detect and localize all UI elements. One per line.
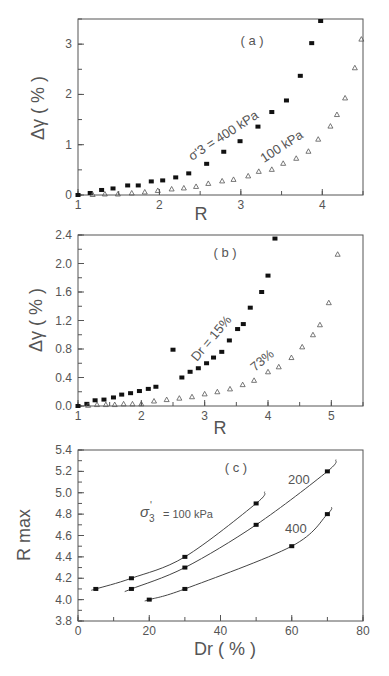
chart-panel-c: 0204060803.84.04.24.44.64.85.05.25.4 R m… — [14, 443, 370, 659]
axis-ticks-a: 12340123 — [65, 19, 363, 212]
svg-text:= 100 kPa: = 100 kPa — [163, 508, 214, 520]
square-marker — [179, 376, 184, 380]
square-marker — [76, 193, 81, 197]
triangle-marker — [206, 181, 211, 186]
x-tick-label: 2 — [156, 198, 163, 212]
y-tick-label: 5.0 — [55, 486, 72, 500]
y-tick-label: 3 — [65, 37, 72, 51]
square-marker — [219, 350, 224, 354]
triangle-marker — [289, 355, 294, 360]
fit-curve — [91, 492, 264, 591]
triangle-marker — [215, 389, 220, 394]
square-marker — [221, 150, 226, 154]
y-tick-label: 4.2 — [55, 571, 72, 585]
y-tick-label: 4.4 — [55, 550, 72, 564]
triangle-marker — [352, 65, 357, 70]
x-axis-label-c: Dr ( % ) — [194, 639, 256, 659]
x-axis-label-b: R — [214, 418, 227, 438]
y-tick-label: 4.6 — [55, 529, 72, 543]
plot-frame-a — [78, 19, 363, 195]
y-tick-label: 0 — [65, 188, 72, 202]
data-points-b — [76, 237, 341, 408]
square-marker — [325, 469, 330, 473]
triangle-marker — [276, 364, 281, 369]
square-marker — [204, 162, 209, 166]
square-marker — [101, 398, 106, 402]
square-marker — [254, 501, 259, 505]
triangle-marker — [202, 391, 207, 396]
x-tick-label: 1 — [75, 409, 82, 423]
square-marker — [147, 598, 152, 602]
x-tick-label: 4 — [319, 198, 326, 212]
square-marker — [171, 348, 176, 352]
y-tick-label: 0.4 — [55, 371, 72, 385]
triangle-marker — [281, 161, 286, 166]
square-marker — [309, 41, 314, 45]
square-marker — [149, 179, 154, 183]
triangle-marker — [306, 149, 311, 154]
square-marker — [272, 237, 277, 241]
series-label-a-100: 100 kPa — [257, 127, 306, 166]
square-marker — [289, 544, 294, 548]
x-tick-label: 5 — [328, 409, 335, 423]
y-tick-label: 1.2 — [55, 314, 72, 328]
figure: 12340123 Δγ ( % ) R ( a ) σ'3 = 400 kPa … — [0, 0, 389, 676]
x-tick-label: 4 — [265, 409, 272, 423]
square-marker — [241, 322, 246, 326]
square-marker — [160, 178, 165, 182]
triangle-marker — [310, 332, 315, 337]
x-tick-label: 3 — [238, 198, 245, 212]
square-marker — [111, 186, 116, 190]
square-marker — [269, 110, 274, 114]
square-marker — [182, 555, 187, 559]
data-points-a — [76, 19, 364, 197]
y-tick-label: 4.8 — [55, 507, 72, 521]
series-label-c-100: σ ' 3 = 100 kPa — [140, 500, 214, 524]
square-marker — [128, 391, 133, 395]
triangle-marker — [228, 386, 233, 391]
triangle-marker — [300, 344, 305, 349]
square-marker — [99, 188, 104, 192]
square-marker — [266, 274, 271, 278]
square-marker — [259, 290, 264, 294]
chart-panel-a: 12340123 Δγ ( % ) R ( a ) σ'3 = 400 kPa … — [28, 19, 364, 224]
panel-label-c: ( c ) — [225, 460, 247, 475]
square-marker — [129, 576, 134, 580]
y-tick-label: 5.4 — [55, 443, 72, 457]
square-marker — [255, 125, 260, 129]
triangle-marker — [266, 369, 271, 374]
square-marker — [146, 387, 151, 391]
x-axis-label-a: R — [195, 204, 208, 224]
triangle-marker — [335, 252, 340, 256]
chart-panel-b: 123450.00.40.81.21.62.02.4 Δγ ( % ) R ( … — [26, 228, 363, 438]
y-axis-label-b: Δγ ( % ) — [26, 288, 46, 352]
square-marker — [125, 183, 130, 187]
plot-frame-c — [78, 450, 363, 621]
triangle-marker — [194, 184, 199, 189]
square-marker — [136, 183, 141, 187]
triangle-marker — [142, 189, 147, 194]
square-marker — [235, 327, 240, 331]
square-marker — [119, 393, 124, 397]
triangle-marker — [256, 169, 261, 174]
triangle-marker — [181, 185, 186, 190]
triangle-marker — [334, 112, 339, 117]
square-marker — [188, 370, 193, 374]
y-tick-label: 3.8 — [55, 614, 72, 628]
y-tick-label: 5.2 — [55, 464, 72, 478]
triangle-marker — [231, 177, 236, 182]
series-label-c-400: 400 — [285, 521, 307, 536]
triangle-marker — [294, 156, 299, 161]
triangle-marker — [177, 396, 182, 401]
axis-ticks-c: 0204060803.84.04.24.44.64.85.05.25.4 — [55, 443, 370, 638]
x-tick-label: 40 — [214, 624, 228, 638]
square-marker — [137, 389, 142, 393]
square-marker — [93, 587, 98, 591]
triangle-marker — [152, 399, 157, 404]
triangle-marker — [220, 178, 225, 183]
triangle-marker — [130, 401, 135, 406]
triangle-marker — [316, 137, 321, 142]
series-label-b-73: 73% — [247, 346, 277, 374]
triangle-marker — [121, 401, 126, 406]
y-tick-label: 2 — [65, 87, 72, 101]
